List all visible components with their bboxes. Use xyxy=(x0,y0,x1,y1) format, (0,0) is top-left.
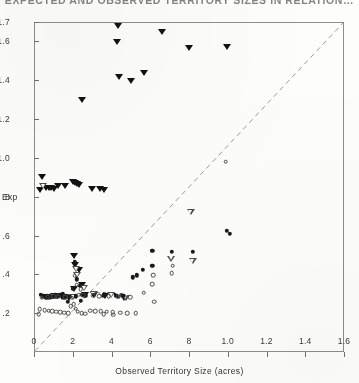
data-point-open-circle xyxy=(150,282,155,287)
data-point-open-circle xyxy=(45,295,50,300)
y-tick xyxy=(34,274,39,275)
y-tick-label: 1.0 xyxy=(0,153,10,163)
x-tick-label: 6 xyxy=(148,336,153,346)
data-point-filled-triangle-down xyxy=(115,74,123,80)
data-point-filled-triangle-down xyxy=(100,187,108,193)
data-point-open-circle xyxy=(125,311,130,316)
data-point-open-circle xyxy=(91,293,96,298)
data-point-open-triangle-down xyxy=(189,259,197,265)
y-tick xyxy=(34,313,39,314)
data-point-open-triangle-down xyxy=(168,256,176,262)
data-point-open-circle xyxy=(133,311,138,316)
y-axis-title: Exp xyxy=(2,192,18,202)
data-point-filled-circle xyxy=(228,231,232,235)
y-tick xyxy=(34,41,39,42)
x-tick-label: 1.4 xyxy=(299,336,312,346)
x-tick-label: 4 xyxy=(109,336,114,346)
y-tick-label: .2 xyxy=(2,308,10,318)
data-point-open-circle xyxy=(152,299,157,304)
data-point-open-circle xyxy=(141,291,146,296)
x-tick-label: 8 xyxy=(186,336,191,346)
data-point-filled-triangle-down xyxy=(113,39,121,45)
y-tick xyxy=(34,80,39,81)
x-tick xyxy=(305,352,306,357)
x-tick-label: 1.0 xyxy=(221,336,234,346)
y-tick-label: 1.6 xyxy=(0,36,10,46)
data-point-open-circle xyxy=(93,309,98,314)
data-point-filled-triangle-down xyxy=(70,253,78,259)
data-point-filled-triangle-down xyxy=(50,186,58,192)
data-point-filled-triangle-down xyxy=(127,78,135,84)
x-tick xyxy=(73,352,74,357)
x-tick-label: 1.2 xyxy=(260,336,273,346)
data-point-filled-triangle-down xyxy=(78,97,86,103)
data-point-filled-triangle-down xyxy=(223,44,231,50)
data-point-filled-circle xyxy=(169,250,173,254)
data-point-filled-circle xyxy=(150,249,154,253)
data-point-open-circle xyxy=(78,287,83,292)
data-point-open-circle xyxy=(101,312,106,317)
x-tick xyxy=(267,352,268,357)
data-point-filled-triangle-down xyxy=(75,182,83,188)
data-point-filled-circle xyxy=(140,268,144,272)
chart-figure: EXPECTED AND OBSERVED TERRITORY SIZES IN… xyxy=(0,0,359,383)
data-point-open-circle xyxy=(81,293,86,298)
x-axis-title: Observed Territory Size (acres) xyxy=(0,366,359,376)
data-point-filled-triangle-down xyxy=(185,45,193,51)
y-tick-label: 1.7 xyxy=(0,17,10,27)
data-point-open-circle xyxy=(39,295,44,300)
data-point-open-triangle-down xyxy=(187,210,195,216)
plot-area xyxy=(34,22,344,352)
data-point-filled-circle xyxy=(78,299,82,303)
x-tick xyxy=(344,352,345,357)
x-tick xyxy=(34,352,35,357)
data-point-open-circle xyxy=(169,271,174,276)
data-point-filled-circle xyxy=(191,250,195,254)
y-tick xyxy=(34,197,39,198)
data-point-filled-triangle-down xyxy=(61,183,69,189)
y-tick xyxy=(34,119,39,120)
data-point-filled-triangle-down xyxy=(140,70,148,76)
y-tick xyxy=(34,22,39,23)
x-tick xyxy=(189,352,190,357)
data-point-open-circle xyxy=(106,294,111,299)
data-point-open-circle xyxy=(170,263,175,268)
data-point-filled-triangle-down xyxy=(38,174,46,180)
data-point-open-circle xyxy=(118,310,123,315)
data-point-open-circle xyxy=(116,294,121,299)
data-point-open-circle xyxy=(128,295,133,300)
x-tick-label: 1.6 xyxy=(338,336,351,346)
y-tick xyxy=(34,158,39,159)
data-point-filled-circle xyxy=(150,263,154,267)
data-point-open-circle xyxy=(151,273,156,278)
data-point-open-circle xyxy=(97,294,102,299)
y-tick-label: 1.4 xyxy=(0,75,10,85)
data-points-layer xyxy=(35,23,343,351)
data-point-open-triangle-down xyxy=(40,184,48,190)
y-tick-label: .4 xyxy=(2,269,10,279)
x-tick xyxy=(228,352,229,357)
y-tick-label: .6 xyxy=(2,231,10,241)
data-point-filled-triangle-down xyxy=(158,29,166,35)
data-point-open-circle xyxy=(63,295,68,300)
y-tick xyxy=(34,236,39,237)
data-point-open-circle xyxy=(224,159,229,164)
data-point-open-circle xyxy=(72,273,77,278)
x-tick xyxy=(150,352,151,357)
x-tick-label: 0 xyxy=(31,336,36,346)
x-tick-label: 2 xyxy=(70,336,75,346)
data-point-open-circle xyxy=(83,311,88,316)
data-point-filled-circle xyxy=(135,273,139,277)
data-point-open-circle xyxy=(70,296,75,301)
data-point-filled-triangle-down xyxy=(114,23,122,29)
data-point-open-circle xyxy=(111,312,116,317)
data-point-open-circle xyxy=(66,311,71,316)
chart-title: EXPECTED AND OBSERVED TERRITORY SIZES IN… xyxy=(0,0,359,6)
x-tick xyxy=(112,352,113,357)
y-tick-label: 1.2 xyxy=(0,114,10,124)
data-point-open-circle xyxy=(56,294,61,299)
